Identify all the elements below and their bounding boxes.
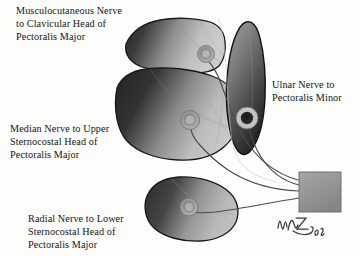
label-median-nerve: Median Nerve to Upper Sternocostal Head … — [10, 122, 150, 162]
pectoralis-minor-shape — [226, 22, 265, 155]
artist-signature — [278, 218, 324, 235]
label-radial-nerve: Radial Nerve to Lower Sternocostal Head … — [28, 212, 168, 252]
motor-point-upper-sternocostal — [181, 111, 200, 130]
motor-point-pectoralis-minor — [236, 107, 258, 129]
anatomy-figure: Musculocutaneous Nerve to Clavicular Hea… — [0, 0, 359, 256]
nerve-source-block — [299, 172, 341, 212]
label-ulnar-nerve: Ulnar Nerve to Pectoralis Minor — [272, 78, 358, 104]
motor-point-clavicular — [198, 46, 215, 63]
motor-point-lower-sternocostal — [180, 198, 198, 216]
label-musculocutaneous-nerve: Musculocutaneous Nerve to Clavicular Hea… — [16, 4, 166, 44]
